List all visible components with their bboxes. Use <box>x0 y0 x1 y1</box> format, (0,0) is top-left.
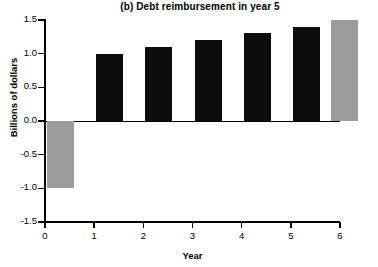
bar-year-4[interactable] <box>244 33 271 121</box>
x-tick-mark <box>241 222 242 228</box>
bar-year-3[interactable] <box>195 40 222 121</box>
x-tick-mark <box>44 222 45 228</box>
x-tick-label: 4 <box>227 230 257 241</box>
y-tick-mark <box>38 53 45 54</box>
x-tick-mark <box>290 222 291 228</box>
y-tick-label: 1.5 <box>0 13 37 24</box>
x-tick-mark <box>93 222 94 228</box>
y-tick-label: 1.0 <box>0 47 37 58</box>
bar-year-0[interactable] <box>47 121 74 188</box>
bar-year-1[interactable] <box>96 54 123 121</box>
y-tick-mark <box>38 154 45 155</box>
y-tick-label: 0.0 <box>0 114 37 125</box>
x-tick-label: 3 <box>178 230 208 241</box>
y-tick-label: -0.5 <box>0 148 37 159</box>
x-axis-label: Year <box>45 250 340 261</box>
x-tick-label: 2 <box>128 230 158 241</box>
y-tick-label: -1.5 <box>0 215 37 226</box>
bar-year-2[interactable] <box>145 47 172 121</box>
x-tick-label: 0 <box>30 230 60 241</box>
x-tick-label: 6 <box>325 230 355 241</box>
x-tick-label: 1 <box>79 230 109 241</box>
y-tick-mark <box>38 120 45 121</box>
chart-title: (b) Debt reimbursement in year 5 <box>60 1 340 12</box>
bar-reimbursement-year-5[interactable] <box>331 20 358 121</box>
x-tick-mark <box>143 222 144 228</box>
x-tick-label: 5 <box>276 230 306 241</box>
y-tick-mark <box>38 188 45 189</box>
y-tick-mark <box>38 87 45 88</box>
x-tick-mark <box>192 222 193 228</box>
bar-year-5[interactable] <box>293 27 320 121</box>
y-tick-label: -1.0 <box>0 181 37 192</box>
y-tick-mark <box>38 19 45 20</box>
x-tick-mark <box>339 222 340 228</box>
y-tick-label: 0.5 <box>0 80 37 91</box>
plot-area <box>45 20 340 222</box>
chart-figure: (b) Debt reimbursement in year 5 Billion… <box>0 0 378 267</box>
